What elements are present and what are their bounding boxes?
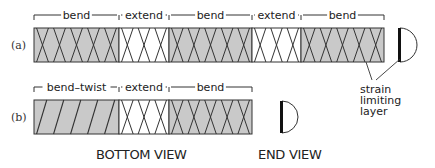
- row-label-a: (a): [11, 40, 26, 51]
- row-label-b: (b): [11, 112, 27, 123]
- segment-label: extend: [125, 81, 163, 94]
- segment-label: extend: [257, 9, 295, 22]
- strain-label-line-3: layer: [360, 106, 401, 117]
- segment-bend-twist: bend–twist: [34, 81, 119, 134]
- end-view-b: [280, 101, 298, 133]
- segment-extend: extend: [119, 9, 169, 62]
- row-a: bendextendbendextendbend: [34, 9, 417, 62]
- segment-label: extend: [125, 9, 163, 22]
- segment-label: bend: [63, 9, 91, 22]
- segment-label: bend: [329, 9, 357, 22]
- segment-bend: bend: [34, 9, 119, 62]
- segment-label: bend: [197, 81, 225, 94]
- end-view-a: [398, 28, 417, 62]
- segment-label: bend–twist: [47, 81, 107, 94]
- strain-limiting-layer: [280, 101, 283, 133]
- row-b: bend–twistextendbend: [34, 81, 298, 134]
- strain-limiting-layer-label: strain limiting layer: [360, 84, 401, 117]
- end-view-caption: END VIEW: [258, 148, 321, 161]
- bottom-view-caption: BOTTOM VIEW: [96, 148, 187, 161]
- segment-extend: extend: [119, 81, 169, 134]
- segment-extend: extend: [252, 9, 301, 62]
- segment-bend: bend: [169, 9, 252, 62]
- segment-bend: bend: [301, 9, 384, 62]
- strain-limiting-layer: [398, 28, 401, 62]
- segment-bend: bend: [169, 81, 252, 134]
- leader-line: [366, 62, 372, 80]
- segment-label: bend: [197, 9, 225, 22]
